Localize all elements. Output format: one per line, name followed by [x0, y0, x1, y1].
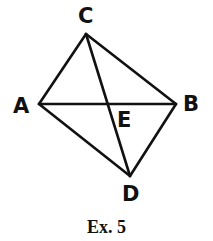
point-label-d: D [122, 184, 139, 205]
point-label-b: B [183, 94, 199, 115]
geometry-figure: C A B E D Ex. 5 [0, 0, 213, 241]
segment-cb [86, 34, 176, 104]
point-label-a: A [13, 96, 29, 117]
figure-caption: Ex. 5 [0, 218, 213, 236]
segment-bd [130, 104, 176, 176]
point-label-e: E [117, 110, 131, 131]
point-label-c: C [78, 6, 93, 27]
quadrilateral-diagram [0, 0, 213, 241]
segment-ac [39, 34, 86, 104]
